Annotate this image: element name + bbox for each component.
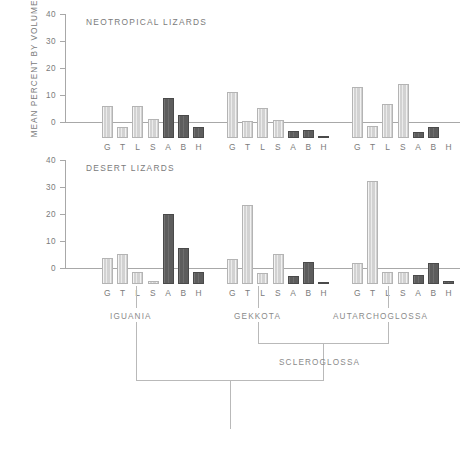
bar-group-autarchoglossa-top: GTLSABH	[352, 30, 458, 138]
clado-branch-autarchoglossa-stem	[388, 286, 389, 308]
bar-top-iguania-S	[148, 119, 159, 138]
y-tick-bottom-30	[60, 187, 65, 188]
x-tick-label-top-iguania-H: H	[193, 142, 204, 152]
bar-top-autarchoglossa-B	[428, 127, 439, 138]
y-tick-top-10	[60, 95, 65, 96]
x-tick-label-top-autarchoglossa-L: L	[382, 142, 393, 152]
bar-bottom-autarchoglossa-L	[382, 272, 393, 284]
x-tick-label-top-gekkota-T: T	[242, 142, 253, 152]
figure-root: MEAN PERCENT BY VOLUME NEOTROPICAL LIZAR…	[0, 0, 465, 453]
x-tick-label-top-iguania-G: G	[102, 142, 113, 152]
x-tick-label-top-gekkota-A: A	[288, 142, 299, 152]
bar-bottom-autarchoglossa-S	[398, 272, 409, 284]
bar-bottom-gekkota-A	[288, 276, 299, 284]
x-tick-label-top-autarchoglossa-H: H	[443, 142, 454, 152]
y-tick-bottom-20	[60, 214, 65, 215]
bar-bottom-autarchoglossa-T	[367, 181, 378, 284]
bar-top-iguania-A	[163, 98, 174, 139]
cladogram: IGUANIA GEKKOTA AUTARCHOGLOSSA SCLEROGLO…	[0, 286, 465, 453]
x-tick-label-top-iguania-B: B	[178, 142, 189, 152]
bar-top-iguania-H	[193, 127, 204, 138]
bar-group-autarchoglossa-bottom: GTLSABH	[352, 176, 458, 284]
y-tick-top-20	[60, 68, 65, 69]
x-tick-label-top-autarchoglossa-A: A	[413, 142, 424, 152]
bar-bottom-autarchoglossa-H	[443, 281, 454, 285]
bar-top-autarchoglossa-S	[398, 84, 409, 138]
x-tick-label-top-autarchoglossa-S: S	[398, 142, 409, 152]
y-tick-label-top-10: 10	[32, 91, 56, 100]
bar-group-iguania-bottom: GTLSABH	[102, 176, 208, 284]
y-tick-label-bottom-10: 10	[32, 237, 56, 246]
y-tick-label-top-0: 0	[32, 118, 56, 127]
bar-top-gekkota-H	[318, 136, 329, 138]
bar-bottom-gekkota-B	[303, 262, 314, 284]
y-tick-top-30	[60, 41, 65, 42]
bar-group-iguania-top: GTLSABH	[102, 30, 208, 138]
bar-bottom-iguania-G	[102, 258, 113, 284]
bar-bottom-gekkota-G	[227, 259, 238, 284]
clado-label-scleroglossa: SCLEROGLOSSA	[279, 358, 360, 367]
bar-bottom-autarchoglossa-A	[413, 275, 424, 284]
clado-branch-iguania-stem	[136, 286, 137, 308]
y-tick-label-bottom-30: 30	[32, 183, 56, 192]
bar-bottom-gekkota-H	[318, 282, 329, 284]
bar-group-gekkota-bottom: GTLSABH	[227, 176, 333, 284]
chart-panel-desert: DESERT LIZARDS 010203040GTLSABHGTLSABHGT…	[42, 160, 460, 284]
clado-branch-gekkota-stem	[258, 286, 259, 308]
x-tick-label-top-iguania-L: L	[132, 142, 143, 152]
y-tick-bottom-0	[60, 268, 65, 269]
y-tick-label-bottom-40: 40	[32, 156, 56, 165]
bar-top-autarchoglossa-L	[382, 104, 393, 138]
clado-label-autarchoglossa: AUTARCHOGLOSSA	[333, 312, 428, 321]
y-tick-top-0	[60, 122, 65, 123]
clado-label-gekkota: GEKKOTA	[234, 312, 281, 321]
bar-bottom-gekkota-L	[257, 273, 268, 284]
y-tick-label-bottom-0: 0	[32, 264, 56, 273]
clado-branch-autarchoglossa-lower	[388, 322, 389, 343]
bar-top-gekkota-L	[257, 108, 268, 138]
y-tick-bottom-10	[60, 241, 65, 242]
bar-top-iguania-L	[132, 106, 143, 138]
bar-bottom-gekkota-T	[242, 205, 253, 284]
x-tick-label-top-iguania-A: A	[163, 142, 174, 152]
bar-bottom-iguania-S	[148, 281, 159, 285]
bar-top-gekkota-A	[288, 131, 299, 138]
clado-root-stem	[230, 380, 231, 429]
x-tick-label-top-gekkota-L: L	[257, 142, 268, 152]
bar-group-gekkota-top: GTLSABH	[227, 30, 333, 138]
bar-top-autarchoglossa-A	[413, 132, 424, 138]
bar-top-iguania-G	[102, 106, 113, 138]
y-tick-label-bottom-20: 20	[32, 210, 56, 219]
bar-top-autarchoglossa-G	[352, 87, 363, 138]
y-tick-label-top-30: 30	[32, 37, 56, 46]
y-tick-top-40	[60, 14, 65, 15]
y-tick-bottom-40	[60, 160, 65, 161]
x-tick-label-top-iguania-S: S	[148, 142, 159, 152]
chart-panel-neotropical: NEOTROPICAL LIZARDS 010203040GTLSABHGTLS…	[42, 14, 460, 138]
x-tick-label-top-gekkota-H: H	[318, 142, 329, 152]
bar-top-gekkota-G	[227, 92, 238, 138]
bar-bottom-iguania-H	[193, 272, 204, 284]
x-tick-label-top-autarchoglossa-T: T	[367, 142, 378, 152]
bar-top-gekkota-B	[303, 130, 314, 138]
bar-top-autarchoglossa-T	[367, 126, 378, 138]
y-tick-label-top-20: 20	[32, 64, 56, 73]
clado-label-iguania: IGUANIA	[110, 312, 152, 321]
clado-branch-gekkota-lower	[258, 322, 259, 343]
x-tick-label-top-autarchoglossa-G: G	[352, 142, 363, 152]
bar-bottom-iguania-T	[117, 254, 128, 284]
bar-bottom-gekkota-S	[273, 254, 284, 284]
x-tick-label-top-gekkota-B: B	[303, 142, 314, 152]
x-tick-label-top-autarchoglossa-B: B	[428, 142, 439, 152]
clado-branch-iguania-lower	[136, 322, 137, 380]
bar-bottom-iguania-A	[163, 214, 174, 284]
y-axis-title: MEAN PERCENT BY VOLUME	[30, 0, 39, 159]
bar-bottom-iguania-B	[178, 248, 189, 284]
bar-bottom-autarchoglossa-G	[352, 263, 363, 284]
x-tick-label-top-gekkota-S: S	[273, 142, 284, 152]
y-tick-label-top-40: 40	[32, 10, 56, 19]
bar-top-gekkota-T	[242, 121, 253, 138]
x-tick-label-top-iguania-T: T	[117, 142, 128, 152]
x-tick-label-top-gekkota-G: G	[227, 142, 238, 152]
bar-bottom-iguania-L	[132, 272, 143, 284]
